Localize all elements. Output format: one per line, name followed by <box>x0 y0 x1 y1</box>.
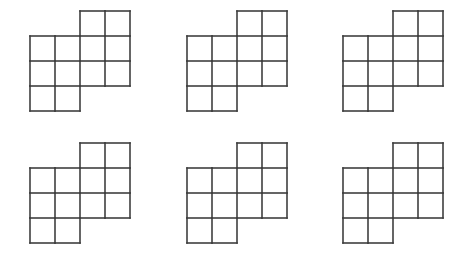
grid-cell <box>393 143 418 168</box>
grid-cell <box>343 193 368 218</box>
grid-cell <box>237 193 262 218</box>
grid-cell <box>418 193 443 218</box>
polyomino-6 <box>343 143 443 243</box>
grid-cell <box>418 168 443 193</box>
grid-cell <box>393 193 418 218</box>
grid-cell <box>212 218 237 243</box>
grid-cell <box>212 36 237 61</box>
grid-cell <box>55 218 80 243</box>
grid-cell <box>343 218 368 243</box>
grid-cell <box>80 168 105 193</box>
grid-cell <box>105 168 130 193</box>
grid-cell <box>30 193 55 218</box>
grid-cell <box>262 193 287 218</box>
grid-cell <box>187 86 212 111</box>
grid-cell <box>393 36 418 61</box>
grid-cell <box>187 168 212 193</box>
grid-cell <box>418 11 443 36</box>
grid-cell <box>262 61 287 86</box>
grid-cell <box>418 143 443 168</box>
grid-cell <box>55 86 80 111</box>
grid-cell <box>30 36 55 61</box>
grid-cell <box>368 86 393 111</box>
grid-cell <box>212 86 237 111</box>
grid-cell <box>368 61 393 86</box>
grid-cell <box>105 11 130 36</box>
grid-cell <box>343 36 368 61</box>
grid-cell <box>418 36 443 61</box>
grid-cell <box>237 11 262 36</box>
grid-cell <box>237 168 262 193</box>
grid-cell <box>80 143 105 168</box>
grid-cell <box>187 218 212 243</box>
polyomino-figure-canvas <box>0 0 463 263</box>
grid-cell <box>237 36 262 61</box>
polyomino-2 <box>187 11 287 111</box>
grid-cell <box>55 61 80 86</box>
polyomino-5 <box>187 143 287 243</box>
grid-cell <box>212 168 237 193</box>
grid-cell <box>237 143 262 168</box>
grid-cell <box>187 193 212 218</box>
grid-cell <box>55 36 80 61</box>
grid-cell <box>105 193 130 218</box>
grid-cell <box>368 218 393 243</box>
grid-cell <box>80 36 105 61</box>
grid-cell <box>80 193 105 218</box>
grid-cell <box>30 61 55 86</box>
polyomino-4 <box>30 143 130 243</box>
grid-cell <box>368 168 393 193</box>
grid-cell <box>262 143 287 168</box>
grid-cell <box>187 36 212 61</box>
grid-cell <box>30 168 55 193</box>
grid-cell <box>105 61 130 86</box>
grid-cell <box>393 11 418 36</box>
grid-cell <box>105 143 130 168</box>
grid-cell <box>368 36 393 61</box>
grid-cell <box>212 61 237 86</box>
polyomino-3 <box>343 11 443 111</box>
grid-cell <box>212 193 237 218</box>
grid-cell <box>262 36 287 61</box>
grid-cell <box>393 168 418 193</box>
grid-cell <box>368 193 393 218</box>
grid-cell <box>55 168 80 193</box>
polyomino-1 <box>30 11 130 111</box>
grid-cell <box>80 61 105 86</box>
grid-cell <box>262 168 287 193</box>
grid-cell <box>343 86 368 111</box>
grid-cell <box>237 61 262 86</box>
grid-cell <box>187 61 212 86</box>
grid-cell <box>105 36 130 61</box>
grid-cell <box>55 193 80 218</box>
grid-cell <box>343 61 368 86</box>
grid-cell <box>393 61 418 86</box>
grid-cell <box>30 86 55 111</box>
grid-cell <box>30 218 55 243</box>
grid-cell <box>80 11 105 36</box>
grid-cell <box>343 168 368 193</box>
grid-cell <box>262 11 287 36</box>
grid-cell <box>418 61 443 86</box>
